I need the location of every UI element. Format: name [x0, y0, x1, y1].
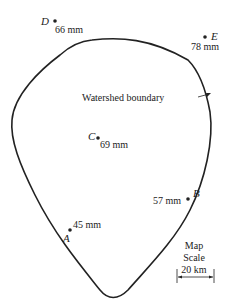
scale-arrow-right-icon	[209, 276, 213, 279]
watershed-boundary	[12, 39, 211, 298]
station-a-id: A	[62, 232, 70, 244]
station-b-value: 57 mm	[153, 195, 181, 206]
scale-distance: 20 km	[181, 264, 207, 275]
station-e-dot	[203, 35, 207, 39]
scale-label-line2: Scale	[183, 252, 205, 263]
station-d-dot	[53, 19, 57, 23]
station-b-id: B	[193, 187, 200, 199]
watershed-diagram: Watershed boundary D 66 mm E 78 mm C 69 …	[0, 0, 232, 308]
station-c-value: 69 mm	[100, 139, 128, 150]
station-a-value: 45 mm	[73, 219, 101, 230]
scale-label-line1: Map	[185, 240, 203, 251]
station-d-id: D	[40, 15, 49, 27]
scale-arrow-left-icon	[178, 276, 182, 279]
boundary-label: Watershed boundary	[82, 92, 164, 103]
station-b-dot	[186, 197, 190, 201]
station-e-value: 78 mm	[191, 41, 219, 52]
station-c-id: C	[88, 130, 96, 142]
station-d-value: 66 mm	[55, 24, 83, 35]
